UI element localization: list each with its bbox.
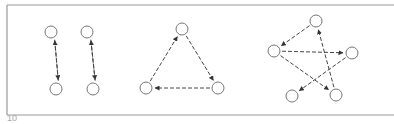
- directed-edge: [186, 36, 213, 80]
- graph-node: [212, 82, 224, 94]
- directed-edge: [150, 37, 177, 81]
- graph-node: [286, 90, 298, 102]
- graph-node: [310, 15, 322, 27]
- graph-node: [346, 47, 358, 59]
- graph-node: [81, 26, 93, 38]
- graphs-layer: [45, 15, 358, 102]
- graph-node: [268, 45, 280, 57]
- graph-node: [330, 89, 342, 101]
- directed-edge: [318, 30, 334, 88]
- directed-graph-figure: [0, 0, 394, 124]
- graph-node: [140, 82, 152, 94]
- directed-edge: [282, 51, 343, 53]
- graph-node: [50, 83, 62, 95]
- graph-node: [87, 83, 99, 95]
- directed-edge: [281, 56, 329, 90]
- graph-node: [45, 26, 57, 38]
- graph-five-cycle-star: [268, 15, 358, 102]
- graph-two-cycle-a: [45, 26, 62, 95]
- directed-edge: [281, 26, 309, 46]
- graph-node: [176, 23, 188, 35]
- graph-three-cycle: [140, 23, 224, 94]
- figure-number-label: 10: [7, 113, 17, 123]
- graph-two-cycle-b: [81, 26, 99, 95]
